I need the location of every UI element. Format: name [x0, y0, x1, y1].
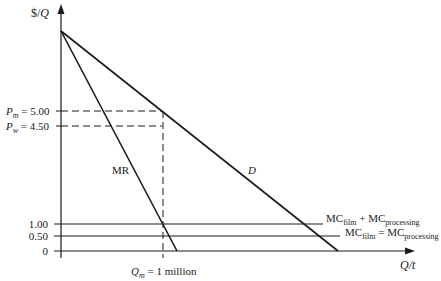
mc-eq-op: =: [375, 226, 387, 238]
qm-value: = 1 million: [145, 265, 197, 277]
demand-label: D: [248, 164, 256, 176]
x-axis-label: Q/t: [400, 259, 415, 271]
pw-label: Pw = 4.50: [6, 120, 49, 137]
y-axis-label-unit: $/: [31, 6, 40, 20]
pw-value: = 4.50: [18, 120, 49, 132]
pm-var: P: [6, 105, 13, 117]
tick-label-1-00: 1.00: [20, 218, 48, 230]
y-axis-arrow-icon: [58, 4, 65, 14]
mc-eq-a-sub: film: [362, 232, 375, 241]
x-axis-arrow-icon: [405, 248, 415, 255]
qm-var: Q: [131, 265, 139, 277]
pm-value: = 5.00: [19, 105, 50, 117]
mc-eq-a: MC: [345, 226, 362, 238]
mr-label: MR: [112, 164, 129, 176]
tick-label-0-50: 0.50: [20, 230, 48, 242]
y-axis-label: $/Q: [31, 7, 49, 19]
y-axis-label-var: Q: [40, 6, 49, 20]
demand-curve: [61, 31, 338, 251]
mc-sum-a: MC: [326, 212, 343, 224]
mc-sum-b: MC: [368, 212, 385, 224]
x-axis-label-t: t: [412, 258, 415, 272]
mc-sum-op: +: [356, 212, 368, 224]
qm-label: Qm = 1 million: [131, 265, 196, 281]
mc-eq-b: MC: [387, 226, 404, 238]
x-axis-label-q: Q: [400, 258, 409, 272]
mr-curve: [61, 31, 177, 251]
mc-eq-label: MCfilm = MCprocessing: [345, 226, 439, 243]
mc-eq-b-sub: processing: [404, 232, 438, 241]
pw-var: P: [6, 120, 13, 132]
tick-label-0: 0: [20, 245, 48, 257]
